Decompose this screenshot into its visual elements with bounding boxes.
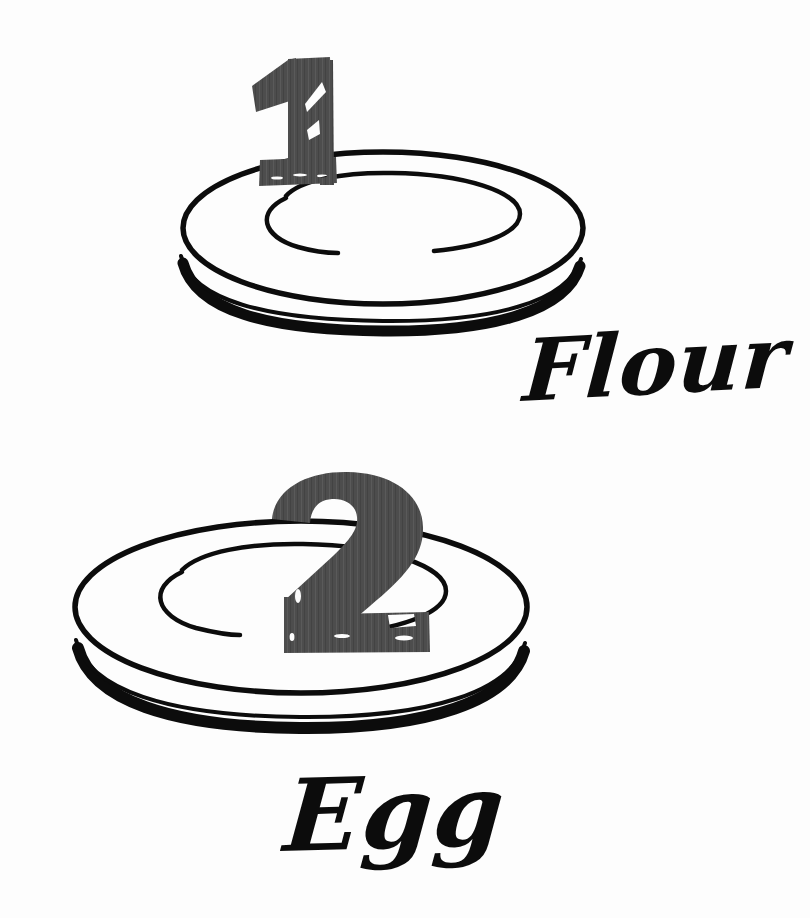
label-flour: Flour: [521, 313, 791, 414]
plate-two: [75, 472, 527, 728]
label-egg: Egg: [281, 760, 508, 866]
illustration-canvas: Flour Egg: [0, 0, 810, 918]
numeral-one-icon: [252, 57, 337, 186]
plate-one: [181, 57, 583, 331]
